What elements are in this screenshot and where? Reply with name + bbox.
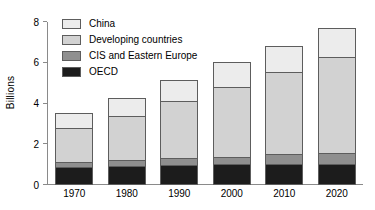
bar-segment [265, 164, 303, 185]
legend-item-1: Developing countries [62, 33, 197, 46]
y-tick-label: 0 [33, 179, 39, 190]
bar-segment [213, 87, 251, 158]
bar-2010 [265, 46, 303, 185]
y-tick: 2 [43, 143, 47, 144]
bar-segment [108, 98, 146, 116]
y-tick: 8 [43, 21, 47, 22]
bar-segment [55, 167, 93, 185]
bar-segment [318, 164, 356, 185]
bar-segment [265, 72, 303, 156]
legend-label: Developing countries [89, 34, 182, 45]
y-tick-label: 8 [33, 16, 39, 27]
bar-segment [160, 165, 198, 185]
y-tick-label: 6 [33, 57, 39, 68]
y-tick: 0 [43, 184, 47, 185]
bar-1990 [160, 80, 198, 185]
legend-swatch [62, 19, 81, 29]
y-axis-title-text: Billions [6, 76, 17, 109]
x-tick-label: 2010 [273, 188, 295, 199]
bar-segment [318, 28, 356, 58]
bar-1980 [108, 98, 146, 185]
legend-item-2: CIS and Eastern Europe [62, 49, 197, 62]
bar-segment [160, 101, 198, 158]
bar-segment [213, 164, 251, 185]
bar-segment [265, 46, 303, 72]
legend-item-0: China [62, 17, 197, 30]
legend-swatch [62, 51, 81, 61]
stacked-bar-chart: Billions 02468 197019801990200020102020 … [0, 0, 375, 210]
bar-segment [55, 128, 93, 163]
legend-label: CIS and Eastern Europe [89, 50, 197, 61]
y-tick-label: 4 [33, 98, 39, 109]
bar-segment [108, 116, 146, 161]
legend-swatch [62, 67, 81, 77]
bar-segment [213, 62, 251, 88]
bar-segment [108, 166, 146, 185]
legend-label: OECD [89, 66, 118, 77]
x-tick-label: 1980 [116, 188, 138, 199]
bar-2020 [318, 28, 356, 185]
legend-label: China [89, 18, 115, 29]
chart-legend: ChinaDeveloping countriesCIS and Eastern… [62, 17, 197, 81]
bar-segment [318, 57, 356, 155]
x-tick-label: 2000 [221, 188, 243, 199]
bar-segment [55, 113, 93, 129]
x-axis-labels: 197019801990200020102020 [47, 188, 363, 204]
legend-swatch [62, 35, 81, 45]
y-tick: 4 [43, 103, 47, 104]
bar-2000 [213, 62, 251, 185]
y-tick-label: 2 [33, 138, 39, 149]
legend-item-3: OECD [62, 65, 197, 78]
y-axis-title: Billions [2, 0, 20, 185]
y-tick: 6 [43, 62, 47, 63]
x-tick-label: 1990 [168, 188, 190, 199]
x-tick-label: 1970 [63, 188, 85, 199]
bar-1970 [55, 113, 93, 185]
x-tick-label: 2020 [326, 188, 348, 199]
bar-segment [160, 80, 198, 102]
